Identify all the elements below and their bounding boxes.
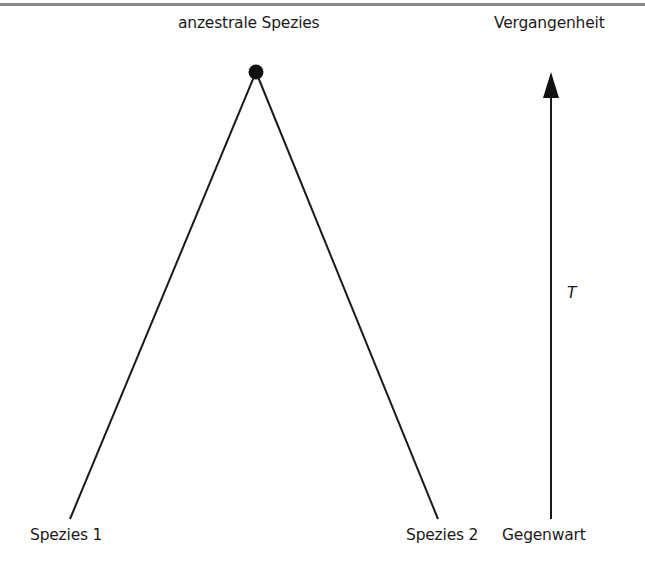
ancestor-node	[249, 65, 264, 80]
branch-to-species-2	[256, 72, 438, 519]
past-label: Vergangenheit	[494, 14, 605, 32]
species-1-label: Spezies 1	[30, 526, 102, 544]
present-label: Gegenwart	[502, 526, 586, 544]
ancestor-label: anzestrale Spezies	[178, 14, 319, 32]
time-axis-arrowhead-icon	[543, 72, 559, 98]
branch-to-species-1	[70, 72, 256, 519]
species-2-label: Spezies 2	[406, 526, 478, 544]
phylogeny-diagram	[0, 0, 645, 577]
time-label: T	[567, 284, 576, 302]
